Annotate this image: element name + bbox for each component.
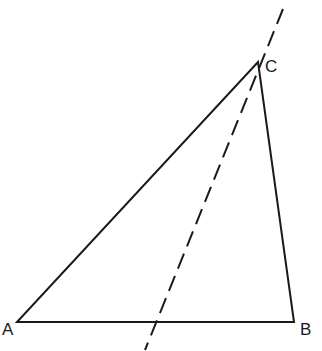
vertex-label-c: C bbox=[265, 58, 277, 75]
vertex-label-b: B bbox=[300, 321, 311, 338]
triangle-abc bbox=[17, 62, 294, 322]
vertex-label-a: A bbox=[2, 321, 13, 338]
diagram-svg bbox=[0, 0, 322, 351]
triangle-diagram: A B C bbox=[0, 0, 322, 351]
dashed-line-through-c bbox=[145, 9, 283, 350]
